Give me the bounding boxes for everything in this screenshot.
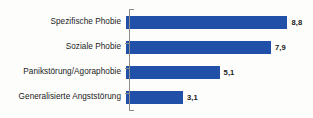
category-label-specific-phobia: Spezifische Phobie bbox=[0, 18, 126, 27]
bar-value-generalized-anxiety: 3,1 bbox=[187, 93, 198, 102]
bar-area: 5,1 bbox=[126, 60, 313, 85]
bar-social-phobia bbox=[126, 41, 271, 54]
chart-row: Spezifische Phobie 8,8 bbox=[0, 10, 313, 35]
chart-row: Soziale Phobie 7,9 bbox=[0, 35, 313, 60]
chart-row: Panikstörung/Agoraphobie 5,1 bbox=[0, 60, 313, 85]
bar-value-social-phobia: 7,9 bbox=[275, 43, 286, 52]
bar-value-specific-phobia: 8,8 bbox=[291, 18, 302, 27]
bar-area: 7,9 bbox=[126, 35, 313, 60]
bar-specific-phobia bbox=[126, 16, 287, 29]
bar-area: 3,1 bbox=[126, 85, 313, 110]
axis-cap-bottom bbox=[129, 110, 134, 111]
bar-value-panic-agoraphobia: 5,1 bbox=[224, 68, 235, 77]
axis-tick bbox=[125, 43, 129, 44]
category-label-generalized-anxiety: Generalisierte Angststörung bbox=[0, 93, 126, 102]
axis-cap-top bbox=[129, 9, 134, 10]
bar-chart: Spezifische Phobie 8,8 Soziale Phobie 7,… bbox=[0, 0, 313, 118]
category-label-social-phobia: Soziale Phobie bbox=[0, 43, 126, 52]
axis-tick bbox=[125, 93, 129, 94]
category-axis bbox=[129, 9, 130, 111]
axis-tick bbox=[125, 68, 129, 69]
bar-panic-agoraphobia bbox=[126, 66, 220, 79]
chart-row: Generalisierte Angststörung 3,1 bbox=[0, 85, 313, 110]
bar-generalized-anxiety bbox=[126, 91, 183, 104]
bar-area: 8,8 bbox=[126, 10, 313, 35]
category-label-panic-agoraphobia: Panikstörung/Agoraphobie bbox=[0, 68, 126, 77]
chart-plot-area: Spezifische Phobie 8,8 Soziale Phobie 7,… bbox=[0, 10, 313, 110]
